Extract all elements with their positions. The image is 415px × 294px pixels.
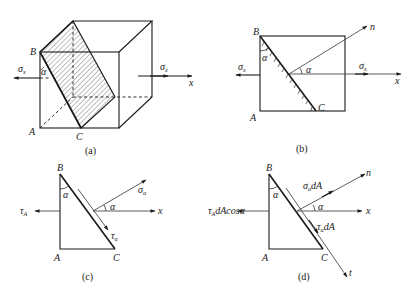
label-sigma-right: σx (359, 60, 367, 72)
label-n: n (370, 21, 375, 32)
caption-c: (c) (82, 271, 93, 283)
label-b: B (57, 162, 63, 173)
label-b: B (30, 46, 36, 57)
label-c: C (318, 102, 325, 113)
stress-diagram: B A C α σx σx x (a) (0, 0, 415, 294)
caption-d: (d) (298, 271, 310, 283)
label-tau-alpha: τα (111, 230, 119, 242)
panel-d: B A C α α x n t τAdAcosα σαdA ταdA (d) (208, 162, 371, 283)
label-c: C (113, 252, 120, 263)
normal-force-arrow (322, 191, 333, 197)
label-b: B (266, 162, 272, 173)
label-a: A (53, 252, 61, 263)
label-left-force: τAdAcosα (208, 205, 246, 217)
label-alpha-top: α (63, 189, 69, 200)
angle-arc-c (311, 106, 313, 111)
label-normal-force: σαdA (303, 180, 323, 192)
caption-b: (b) (296, 143, 308, 155)
label-shear-force: ταdA (317, 221, 336, 233)
plane-hatch (262, 42, 308, 104)
label-n: n (366, 167, 371, 178)
angle-arc-normal (104, 205, 106, 211)
caption-a: (a) (85, 145, 96, 157)
label-a: A (249, 112, 257, 123)
label-x-axis: x (365, 205, 371, 216)
label-a: A (261, 252, 269, 263)
label-sigma-left: σx (18, 63, 26, 75)
label-alpha-top: α (262, 52, 268, 63)
label-sigma-right: σx (160, 61, 168, 73)
angle-arc-normal (313, 205, 315, 211)
label-alpha: α (41, 66, 47, 77)
label-alpha-normal: α (306, 64, 312, 75)
panel-b: B A C α α n σx σx x (b) (236, 21, 401, 155)
label-x-axis: x (157, 205, 163, 216)
label-x-axis: x (394, 75, 400, 86)
label-alpha-normal: α (110, 201, 116, 212)
panel-a: B A C α σx σx x (a) (14, 21, 194, 157)
shear-stress-arrow (78, 189, 108, 230)
tangent-t-line (286, 188, 347, 277)
label-a: A (28, 126, 36, 137)
panel-c: B A C α α x τA σα τα (c) (20, 162, 163, 283)
label-sigma-alpha: σα (138, 184, 147, 196)
label-tau-a: τA (20, 205, 28, 217)
label-b: B (253, 26, 259, 37)
label-c: C (76, 131, 83, 142)
label-t: t (349, 267, 352, 278)
angle-arc-top (260, 48, 269, 51)
label-x-axis: x (188, 77, 194, 88)
label-sigma-left: σx (238, 61, 246, 73)
normal-n-line (289, 26, 367, 74)
angle-arc-normal (300, 68, 302, 74)
hypotenuse-bc (60, 174, 115, 249)
label-alpha-top: α (273, 189, 279, 200)
label-c: C (321, 252, 328, 263)
label-alpha-normal: α (318, 201, 324, 212)
